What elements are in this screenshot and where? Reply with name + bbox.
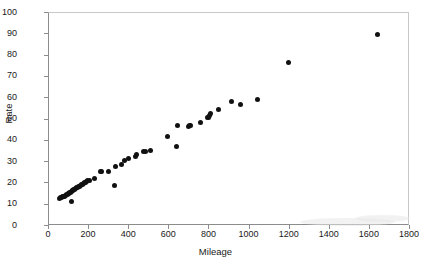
x-tick-mark (409, 225, 410, 229)
data-point (148, 148, 153, 153)
y-tick-mark (44, 140, 48, 141)
data-point (87, 178, 92, 183)
x-tick-mark (168, 225, 169, 229)
x-tick-mark (208, 225, 209, 229)
y-tick-mark (44, 12, 48, 13)
x-tick-label: 1600 (349, 230, 389, 239)
x-tick-label: 200 (68, 230, 108, 239)
x-tick-mark (48, 225, 49, 229)
y-tick-mark (44, 97, 48, 98)
x-tick-mark (329, 225, 330, 229)
x-tick-mark (88, 225, 89, 229)
x-tick-label: 1000 (229, 230, 269, 239)
y-tick-label: 50 (7, 114, 17, 123)
data-point (92, 176, 97, 181)
x-tick-label: 800 (188, 230, 228, 239)
y-tick-label: 80 (7, 50, 17, 59)
y-tick-label: 60 (7, 93, 17, 102)
plot-area (48, 12, 409, 225)
y-tick-label: 100 (2, 8, 17, 17)
y-tick-label: 0 (12, 221, 17, 230)
x-tick-label: 1200 (269, 230, 309, 239)
y-tick-mark (44, 76, 48, 77)
data-point (69, 199, 74, 204)
x-tick-mark (249, 225, 250, 229)
x-tick-mark (128, 225, 129, 229)
y-tick-mark (44, 119, 48, 120)
x-tick-mark (289, 225, 290, 229)
x-tick-label: 400 (108, 230, 148, 239)
y-tick-mark (44, 182, 48, 183)
y-tick-mark (44, 55, 48, 56)
x-tick-label: 600 (148, 230, 188, 239)
y-tick-label: 20 (7, 178, 17, 187)
data-point (229, 99, 234, 104)
y-tick-label: 70 (7, 71, 17, 80)
y-tick-mark (44, 204, 48, 205)
x-axis-title: Mileage (0, 246, 431, 257)
x-tick-label: 1800 (389, 230, 429, 239)
x-tick-mark (369, 225, 370, 229)
y-tick-mark (44, 161, 48, 162)
x-tick-label: 0 (28, 230, 68, 239)
data-point (198, 120, 203, 125)
scatter-chart: Rate Mileage 0102030405060708090100 0200… (0, 0, 431, 268)
data-point (208, 111, 213, 116)
data-point (113, 164, 118, 169)
y-tick-label: 30 (7, 157, 17, 166)
y-tick-label: 40 (7, 135, 17, 144)
data-point (112, 183, 117, 188)
x-tick-label: 1400 (309, 230, 349, 239)
data-point (238, 102, 243, 107)
y-tick-label: 10 (7, 199, 17, 208)
y-tick-label: 90 (7, 29, 17, 38)
y-tick-mark (44, 33, 48, 34)
